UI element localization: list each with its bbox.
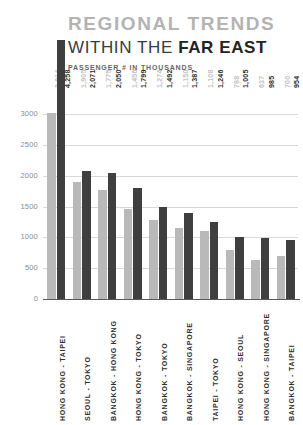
x-axis-category-label: BANGKOK - HONG KONG xyxy=(110,320,117,421)
bar-value-label: 1,108 xyxy=(207,69,214,88)
bar-value-label: 1,492 xyxy=(166,69,173,88)
bar[interactable] xyxy=(226,250,235,299)
bar[interactable] xyxy=(149,220,158,299)
x-axis-category-label: BANGKOK - TOKYO xyxy=(161,343,168,421)
x-axis-category-label: BANGKOK - SINGAPORE xyxy=(186,322,193,421)
bar-value-label: 1,799 xyxy=(140,69,147,88)
x-axis-category-label: HONG KONG - SINGAPORE xyxy=(263,313,270,421)
y-axis-tick-label: 500 xyxy=(0,264,38,272)
x-axis-category-label: BANGKOK - TAIPEI xyxy=(288,345,295,421)
bar[interactable] xyxy=(261,238,270,299)
bar-value-label: 985 xyxy=(268,76,275,88)
y-axis-tick-label: 3000 xyxy=(0,110,38,118)
bar-value-label: 1,150 xyxy=(182,69,189,88)
bar-group[interactable]: 3,0144,258 xyxy=(47,40,65,299)
bar-group[interactable]: 700954 xyxy=(277,40,295,299)
bar-value-label: 2,071 xyxy=(89,69,96,88)
bar-group[interactable]: 1,1501,387 xyxy=(175,40,193,299)
bar[interactable] xyxy=(133,188,142,299)
bar[interactable] xyxy=(82,171,91,299)
x-axis-category-label: HONG KONG - TOKYO xyxy=(135,333,142,421)
y-axis-labels: 050010001500200025003000 xyxy=(0,114,38,299)
bar-value-label: 788 xyxy=(233,76,240,88)
bar[interactable] xyxy=(277,256,286,299)
bar-groups: 3,0144,2581,9052,0711,7752,0501,4561,799… xyxy=(43,40,298,299)
x-axis-category-label: HONG KONG - TAIPEI xyxy=(59,335,66,421)
bar-value-label: 4,258 xyxy=(64,69,71,88)
bar-group[interactable]: 1,1081,246 xyxy=(200,40,218,299)
y-axis-tick-label: 0 xyxy=(0,295,38,303)
bar[interactable] xyxy=(159,207,168,299)
y-axis-tick-label: 1000 xyxy=(0,233,38,241)
bar[interactable] xyxy=(175,228,184,299)
bar-value-label: 1,005 xyxy=(242,69,249,88)
bar[interactable] xyxy=(200,231,209,299)
bar-value-label: 1,456 xyxy=(131,69,138,88)
bar-value-label: 1,246 xyxy=(217,69,224,88)
bar-value-label: 1,775 xyxy=(105,69,112,88)
bar[interactable] xyxy=(251,260,260,299)
x-axis-category-label: HONG KONG - SEOUL xyxy=(237,334,244,421)
bar-group[interactable]: 1,9052,071 xyxy=(73,40,91,299)
bar-value-label: 2,050 xyxy=(115,69,122,88)
bar-group[interactable]: 1,7752,050 xyxy=(98,40,116,299)
x-axis-category-label: TAIPEI - TOKYO xyxy=(212,357,219,421)
bar[interactable] xyxy=(286,240,295,299)
chart-title: REGIONAL TRENDS xyxy=(68,14,300,34)
bar[interactable] xyxy=(108,173,117,299)
bar[interactable] xyxy=(73,182,82,299)
bar[interactable] xyxy=(98,190,107,299)
bar[interactable] xyxy=(184,213,193,299)
bar[interactable] xyxy=(47,113,56,299)
bar-value-label: 1,387 xyxy=(191,69,198,88)
bar-group[interactable]: 637985 xyxy=(251,40,269,299)
y-axis-tick-label: 2000 xyxy=(0,172,38,180)
x-axis-category-label: SEOUL - TOKYO xyxy=(84,356,91,421)
bar-value-label: 954 xyxy=(293,76,300,88)
bar-group[interactable]: 1,4561,799 xyxy=(124,40,142,299)
y-axis-tick-label: 1500 xyxy=(0,203,38,211)
chart-container: REGIONAL TRENDS WITHIN THE FAR EAST PASS… xyxy=(0,0,303,425)
y-axis-tick-label: 2500 xyxy=(0,141,38,149)
bar-value-label: 1,274 xyxy=(156,69,163,88)
bar-group[interactable]: 1,2741,492 xyxy=(149,40,167,299)
bar-value-label: 1,905 xyxy=(80,69,87,88)
bar[interactable] xyxy=(210,222,219,299)
bar-group[interactable]: 7881,005 xyxy=(226,40,244,299)
bar[interactable] xyxy=(235,237,244,299)
x-axis-labels: HONG KONG - TAIPEISEOUL - TOKYOBANGKOK -… xyxy=(43,303,298,423)
bar-value-label: 700 xyxy=(284,76,291,88)
bar[interactable] xyxy=(124,209,133,299)
bar-value-label: 637 xyxy=(258,76,265,88)
x-axis-line xyxy=(43,299,300,300)
